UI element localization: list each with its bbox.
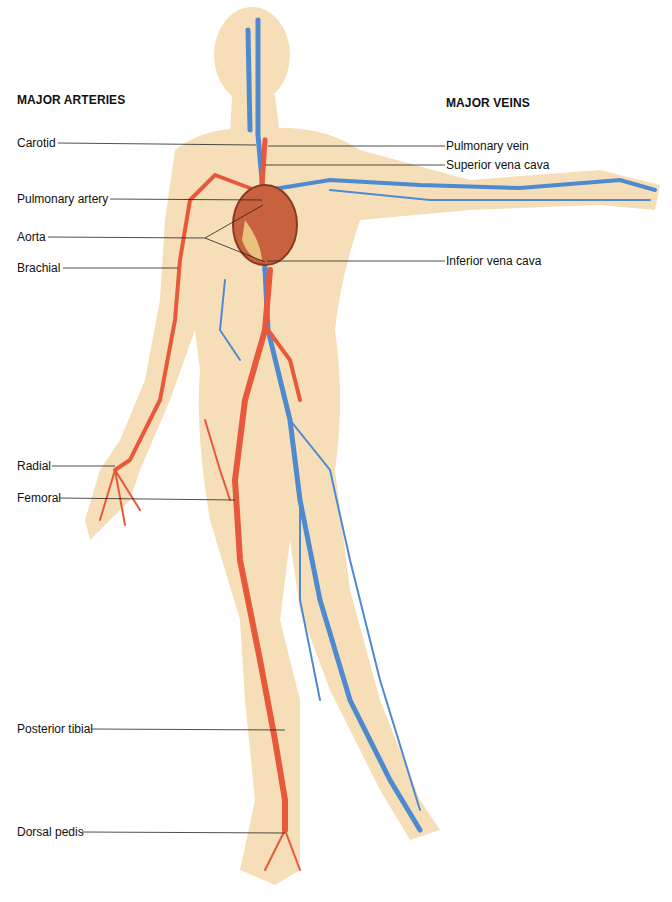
label-pulmonary-vein: Pulmonary vein: [446, 139, 529, 153]
label-femoral: Femoral: [17, 491, 61, 505]
label-pulmonary-artery: Pulmonary artery: [17, 192, 108, 206]
major-arteries-heading: MAJOR ARTERIES: [17, 93, 125, 107]
label-carotid: Carotid: [17, 136, 56, 150]
label-inferior-vena-cava: Inferior vena cava: [446, 254, 541, 268]
circulatory-system-illustration: [0, 0, 672, 902]
label-radial: Radial: [17, 459, 51, 473]
body-silhouette: [85, 7, 660, 885]
label-brachial: Brachial: [17, 261, 60, 275]
label-dorsal-pedis: Dorsal pedis: [17, 825, 84, 839]
label-superior-vena-cava: Superior vena cava: [446, 158, 549, 172]
major-veins-heading: MAJOR VEINS: [446, 96, 530, 110]
label-aorta: Aorta: [17, 230, 46, 244]
label-posterior-tibial: Posterior tibial: [17, 722, 93, 736]
